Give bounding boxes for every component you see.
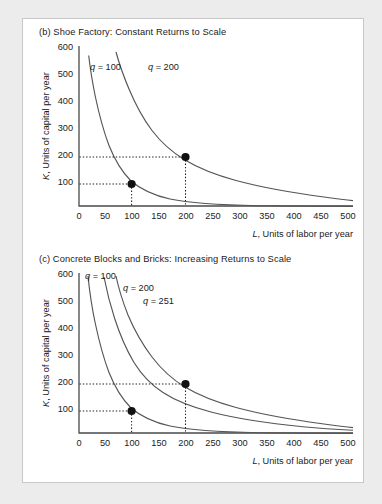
x-tick-100: 100 <box>124 438 139 448</box>
panel-b-plot: 600 500 400 300 200 100 0 50 100 150 200… <box>23 19 365 251</box>
panel-c-y-axis-label: K, Units of capital per year <box>41 299 51 407</box>
x-tick-0: 0 <box>76 438 81 448</box>
axis-lines <box>79 273 353 433</box>
y-tick-300: 300 <box>58 350 73 360</box>
panel-c-x-axis-label: L, Units of labor per year <box>252 456 353 466</box>
x-tick-100: 100 <box>124 211 139 221</box>
x-tick-50: 50 <box>100 211 110 221</box>
x-tick-150: 150 <box>151 211 166 221</box>
panel-b-y-axis-label: K, Units of capital per year <box>41 72 51 180</box>
panel-c-plot: 600 500 400 300 200 100 0 50 100 150 200… <box>23 246 365 478</box>
x-tick-250: 250 <box>205 438 220 448</box>
y-tick-500: 500 <box>58 69 73 79</box>
y-tick-600: 600 <box>58 42 73 52</box>
x-tick-50: 50 <box>100 438 110 448</box>
x-tick-350: 350 <box>259 211 274 221</box>
x-tick-350: 350 <box>259 438 274 448</box>
y-tick-600: 600 <box>58 269 73 279</box>
x-tick-500: 500 <box>340 211 355 221</box>
curve-label-q-200: q = 200 <box>123 283 154 293</box>
curve-label-q-100: q = 100 <box>90 62 121 72</box>
curve-label-q-100: q = 100 <box>85 271 116 281</box>
y-tick-100: 100 <box>58 177 73 187</box>
x-tick-250: 250 <box>205 211 220 221</box>
x-tick-300: 300 <box>232 438 247 448</box>
figure-card: (b) Shoe Factory: Constant Returns to Sc… <box>22 18 364 483</box>
curve-label-q-251: q = 251 <box>143 296 174 306</box>
panel-concrete-blocks: (c) Concrete Blocks and Bricks: Increasi… <box>23 246 365 478</box>
x-tick-200: 200 <box>178 211 193 221</box>
x-tick-450: 450 <box>313 438 328 448</box>
y-tick-200: 200 <box>58 150 73 160</box>
marker-point-100-100 <box>128 407 136 415</box>
x-tick-150: 150 <box>151 438 166 448</box>
x-tick-400: 400 <box>286 211 301 221</box>
panel-b-x-axis-label: L, Units of labor per year <box>252 229 353 239</box>
marker-point-200-200 <box>181 380 189 388</box>
x-tick-200: 200 <box>178 438 193 448</box>
curve-q-200 <box>116 52 353 201</box>
y-tick-400: 400 <box>58 96 73 106</box>
marker-point-100-100 <box>128 180 136 188</box>
x-tick-450: 450 <box>313 211 328 221</box>
x-tick-300: 300 <box>232 211 247 221</box>
y-tick-400: 400 <box>58 323 73 333</box>
y-tick-200: 200 <box>58 377 73 387</box>
y-tick-100: 100 <box>58 404 73 414</box>
panel-shoe-factory: (b) Shoe Factory: Constant Returns to Sc… <box>23 19 365 251</box>
y-tick-500: 500 <box>58 296 73 306</box>
x-tick-400: 400 <box>286 438 301 448</box>
y-tick-300: 300 <box>58 123 73 133</box>
curve-q-200 <box>104 277 353 430</box>
x-tick-500: 500 <box>340 438 355 448</box>
curve-label-q-200: q = 200 <box>148 62 179 72</box>
x-tick-0: 0 <box>76 211 81 221</box>
marker-point-200-200 <box>181 153 189 161</box>
